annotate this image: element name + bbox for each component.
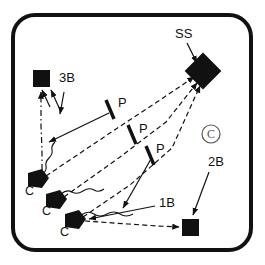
throw-catcher3-to-shortstop (83, 86, 200, 217)
runner-path-catcher2 (61, 189, 104, 194)
base-marker-shortstop (185, 53, 222, 90)
label-catcher-1: C (25, 185, 34, 198)
runner-path-catcher1 (43, 142, 55, 174)
throw-catcher1-to-third (41, 92, 42, 170)
label-pitcher-1: P (118, 96, 127, 109)
diagram-canvas: SS 3B P P P 2B 1B C C C © C (0, 0, 265, 265)
base-marker-third (33, 70, 50, 87)
throw-catcher2-to-shortstop (64, 83, 197, 197)
label-second-base: 2B (208, 155, 224, 168)
play-diagram-svg (0, 0, 265, 265)
label-pitcher-2: P (139, 122, 148, 135)
label-pitcher-3: P (156, 142, 165, 155)
catcher-markers-group (28, 169, 86, 229)
throw-catcher1-to-shortstop (46, 77, 194, 176)
arrow-3b-right (60, 92, 64, 114)
arrow-1b-label-to-path (89, 206, 155, 219)
arrow-screen1-to-catcher (49, 113, 109, 142)
base-marker-second (182, 219, 199, 236)
arrow-3b-left (42, 90, 50, 107)
arrow-3b-middle (51, 90, 61, 112)
label-third-base: 3B (59, 71, 75, 84)
pitcher-screen-2 (128, 125, 136, 144)
pitcher-screen-1 (106, 100, 114, 119)
arrow-screen3-to-catcher (123, 159, 151, 208)
pitcher-screen-3 (146, 146, 154, 165)
throw-catcher3-to-second (85, 221, 179, 227)
label-first-base: 1B (159, 196, 175, 209)
label-shortstop: SS (175, 27, 192, 40)
label-catcher-2: C (42, 205, 51, 218)
label-catcher-3: C (60, 226, 69, 239)
copyright-letter: C (207, 127, 215, 141)
arrow-2b-label-to-base (193, 172, 209, 215)
arrow-ss-label-to-base (187, 43, 197, 63)
